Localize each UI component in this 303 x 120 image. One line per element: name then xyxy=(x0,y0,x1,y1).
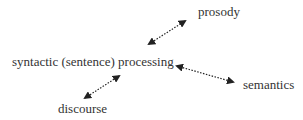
edge-discourse-arrow-icon xyxy=(85,76,119,98)
edge-prosody-arrow-icon xyxy=(149,21,185,44)
edge-semantics-arrow-icon xyxy=(177,66,233,82)
diagram-canvas: syntactic (sentence) processing prosody … xyxy=(0,0,303,120)
node-semantics-label: semantics xyxy=(243,77,294,92)
node-prosody-label: prosody xyxy=(198,4,240,19)
node-discourse-label: discourse xyxy=(58,101,107,116)
diagram-svg: syntactic (sentence) processing prosody … xyxy=(0,0,303,120)
center-node-label: syntactic (sentence) processing xyxy=(12,54,174,69)
